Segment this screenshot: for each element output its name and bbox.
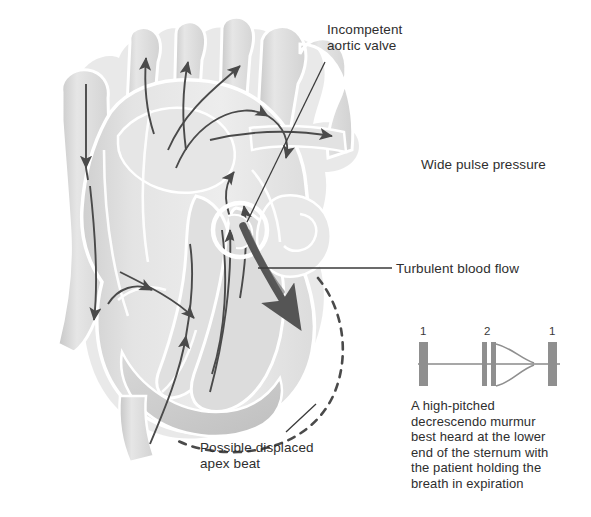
phono-decrescendo-murmur [496,344,534,363]
phono-s1-bar [419,342,428,386]
phono-s1-bar-2 [548,342,557,386]
phono-s2-bar-b [491,342,496,386]
phono-decrescendo-murmur-lower [496,365,534,386]
label-incompetent-aortic-valve: Incompetent aortic valve [327,22,402,54]
label-possible-displaced-apex-beat: Possible displaced apex beat [200,440,314,472]
label-turbulent-blood-flow: Turbulent blood flow [396,261,519,277]
heart-diagram-figure: 1 2 1 Incompetent aortic valve Wide puls… [0,0,591,517]
phono-s2-bar-a [482,342,487,386]
label-murmur-description: A high-pitched decrescendo murmur best h… [411,398,548,492]
phono-label-s2: 2 [484,325,490,337]
phono-label-s1-first: 1 [420,325,426,337]
label-wide-pulse-pressure: Wide pulse pressure [421,157,546,173]
phono-label-s1-second: 1 [549,325,555,337]
